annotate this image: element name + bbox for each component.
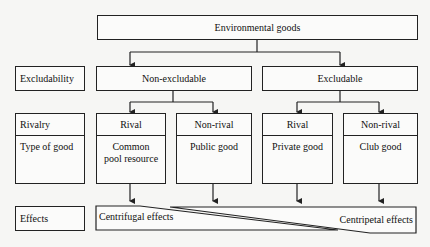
effects-label-box: Effects	[15, 206, 85, 231]
rivalry-value: Rival	[263, 114, 332, 136]
rivalry-label-box: Rivalry Type of good	[15, 113, 85, 184]
excludable-label: Excludable	[318, 73, 363, 84]
rivalry-label: Rivalry	[16, 114, 84, 136]
root-box: Environmental goods	[97, 15, 418, 40]
non-excludable-box: Non-excludable	[96, 66, 252, 91]
excludable-box: Excludable	[262, 66, 418, 91]
rivalry-value: Non-rival	[177, 114, 251, 136]
effects-label: Effects	[20, 213, 48, 224]
good-type: Private good	[263, 136, 332, 153]
good-box-private: Rival Private good	[262, 113, 333, 184]
good-box-public: Non-rival Public good	[176, 113, 252, 184]
rivalry-value: Rival	[97, 114, 165, 136]
good-type: Common pool resource	[97, 136, 165, 165]
rivalry-value: Non-rival	[344, 114, 417, 136]
good-type: Club good	[344, 136, 417, 153]
excludability-label: Excludability	[20, 73, 74, 84]
good-box-club: Non-rival Club good	[343, 113, 418, 184]
good-type: Public good	[177, 136, 251, 153]
centrifugal-effects-label: Centrifugal effects	[99, 211, 174, 222]
excludability-label-box: Excludability	[15, 66, 85, 91]
type-of-good-label: Type of good	[16, 136, 84, 153]
non-excludable-label: Non-excludable	[142, 73, 206, 84]
good-box-common-pool: Rival Common pool resource	[96, 113, 166, 184]
root-label: Environmental goods	[215, 22, 301, 33]
centripetal-effects-label: Centripetal effects	[340, 214, 413, 225]
